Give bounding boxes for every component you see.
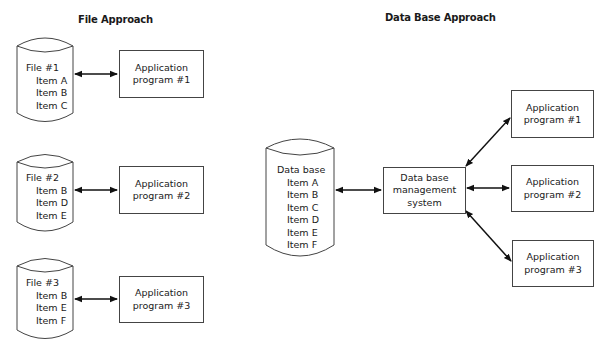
box-line: program #3 [133, 300, 191, 313]
file-app-program-3-box: Application program #3 [119, 276, 204, 323]
file-3-name: File #3 [26, 277, 59, 288]
file-1-item: Item B [26, 87, 67, 100]
file-3-item: Item E [26, 302, 67, 315]
database-item: Item E [277, 227, 325, 240]
database-name: Data base [277, 164, 325, 175]
db-app-program-2-box: Application program #2 [511, 165, 594, 212]
box-line: program #2 [133, 190, 191, 203]
box-line: Application [526, 176, 579, 189]
file-1-name: File #1 [26, 62, 59, 73]
database-label: Data base Item A Item B Item C Item D It… [277, 164, 325, 252]
file-2-item: Item D [26, 197, 68, 210]
box-line: management [393, 184, 457, 197]
box-line: program #3 [524, 264, 582, 277]
box-line: program #2 [524, 189, 582, 202]
file-1-item: Item A [26, 75, 67, 88]
box-line: Application [526, 251, 579, 264]
box-line: Application [135, 287, 188, 300]
arrow-dbms-app3 [466, 211, 511, 261]
box-line: Application [526, 102, 579, 115]
database-item: Item C [277, 202, 325, 215]
file-app-program-1-box: Application program #1 [119, 50, 204, 98]
file-app-program-2-box: Application program #2 [119, 166, 204, 214]
database-item: Item F [277, 239, 325, 252]
box-line: Data base [400, 172, 448, 185]
file-2-label: File #2 Item B Item D Item E [26, 172, 68, 222]
arrow-dbms-app1 [466, 118, 510, 166]
db-app-program-3-box: Application program #3 [512, 240, 594, 287]
box-line: Application [135, 178, 188, 191]
file-2-name: File #2 [26, 172, 59, 183]
database-item: Item A [277, 177, 325, 190]
database-item: Item D [277, 214, 325, 227]
file-3-item: Item F [26, 315, 67, 328]
file-1-item: Item C [26, 100, 67, 113]
box-line: system [407, 197, 441, 210]
file-2-item: Item B [26, 185, 68, 198]
db-app-program-1-box: Application program #1 [511, 90, 594, 138]
box-line: program #1 [524, 114, 582, 127]
file-3-label: File #3 Item B Item E Item F [26, 277, 67, 327]
box-line: Application [135, 62, 188, 75]
file-1-label: File #1 Item A Item B Item C [26, 62, 67, 112]
dbms-box: Data base management system [383, 167, 466, 214]
database-item: Item B [277, 189, 325, 202]
file-3-item: Item B [26, 290, 67, 303]
file-2-item: Item E [26, 210, 68, 223]
box-line: program #1 [133, 74, 191, 87]
